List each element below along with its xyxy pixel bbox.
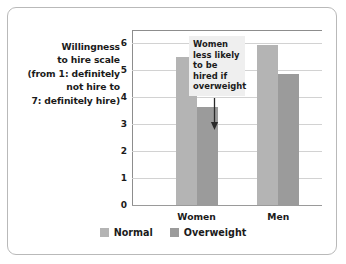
y-axis-label-line: (from 1: definitely <box>14 67 120 80</box>
y-axis-label: Willingness to hire scale (from 1: defin… <box>14 40 120 107</box>
y-tick-label: 5 <box>121 65 127 75</box>
y-axis-label-line: 7: definitely hire) <box>14 94 120 107</box>
legend-swatch-normal <box>100 228 109 237</box>
y-tick-label: 2 <box>121 146 127 156</box>
annotation-line: overweight <box>193 81 241 92</box>
gridline <box>132 205 322 206</box>
y-tick-label: 0 <box>121 200 127 210</box>
legend-label-overweight: Overweight <box>184 227 247 238</box>
x-tick-label-women: Women <box>177 211 215 222</box>
chart-figure: Willingness to hire scale (from 1: defin… <box>7 7 337 255</box>
down-arrow-icon <box>210 98 219 131</box>
bar-men-overweight <box>278 74 299 205</box>
y-tick-label: 1 <box>121 173 127 183</box>
y-axis-label-line: not hire to <box>14 80 120 93</box>
legend-entry-overweight: Overweight <box>170 227 247 238</box>
annotation-line: hired if <box>193 71 241 82</box>
plot-area: 0123456 WomenMen Women less likely to be… <box>132 30 322 205</box>
y-axis-label-line: Willingness <box>14 40 120 53</box>
legend-swatch-overweight <box>170 228 179 237</box>
y-tick-label: 6 <box>121 38 127 48</box>
y-tick-label: 3 <box>121 119 127 129</box>
legend-label-normal: Normal <box>114 227 153 238</box>
annotation-line: Women <box>193 39 241 50</box>
annotation-line: to be <box>193 60 241 71</box>
y-axis-label-line: to hire scale <box>14 53 120 66</box>
chart-legend: Normal Overweight <box>8 227 338 238</box>
x-tick-label-men: Men <box>267 211 289 222</box>
y-tick-label: 4 <box>121 92 127 102</box>
annotation-box: Women less likely to be hired if overwei… <box>189 36 245 96</box>
bar-men-normal <box>257 45 278 205</box>
legend-entry-normal: Normal <box>100 227 153 238</box>
annotation-line: less likely <box>193 50 241 61</box>
